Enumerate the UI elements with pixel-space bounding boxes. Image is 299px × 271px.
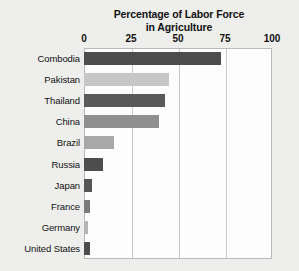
category-label-japan: Japan [0,180,80,191]
bar-japan [84,179,92,192]
bar-row [84,90,272,111]
category-label-brazil: Brazil [0,137,80,148]
x-tick-label-75: 75 [219,33,230,44]
bar-brazil [84,136,114,149]
category-label-combodia: Combodia [0,53,80,64]
bar-chart: Percentage of Labor Force in Agriculture… [0,0,299,271]
category-label-thailand: Thailand [0,95,80,106]
category-label-china: China [0,116,80,127]
bar-row [84,154,272,175]
x-tick-label-0: 0 [81,33,87,44]
bar-china [84,115,159,128]
category-label-russia: Russia [0,159,80,170]
category-label-france: France [0,201,80,212]
bar-germany [84,221,88,234]
category-label-united-states: United States [0,243,80,254]
bar-thailand [84,94,165,107]
bars-layer [84,48,272,259]
bar-france [84,200,90,213]
bar-pakistan [84,73,169,86]
bar-row [84,132,272,153]
category-label-germany: Germany [0,222,80,233]
category-labels: CombodiaPakistanThailandChinaBrazilRussi… [0,48,80,259]
bar-row [84,111,272,132]
bar-row [84,48,272,69]
x-tick-label-50: 50 [172,33,183,44]
bar-russia [84,158,103,171]
bar-row [84,196,272,217]
chart-title-line-2: in Agriculture [84,21,274,34]
x-axis-tick-labels: 0255075100 [0,33,299,47]
bar-united-states [84,242,90,255]
chart-title-line-1: Percentage of Labor Force [114,8,245,20]
bar-row [84,175,272,196]
chart-title: Percentage of Labor Force in Agriculture [84,8,274,33]
bar-combodia [84,52,221,65]
category-label-pakistan: Pakistan [0,74,80,85]
bar-row [84,69,272,90]
x-tick-label-100: 100 [264,33,281,44]
x-tick-label-25: 25 [125,33,136,44]
bar-row [84,238,272,259]
bar-row [84,217,272,238]
